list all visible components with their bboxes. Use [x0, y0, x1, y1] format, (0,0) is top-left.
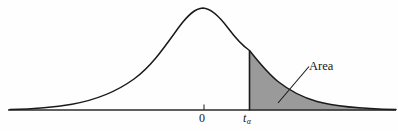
axis-tick-label-zero: 0: [199, 112, 205, 124]
critical-value-subscript-alpha: α: [247, 117, 251, 126]
axis-tick-label-critical-value: tα: [243, 112, 251, 126]
critical-value-base-letter: t: [243, 111, 246, 125]
area-annotation-label: Area: [309, 60, 333, 73]
t-distribution-figure: 0 tα Area: [0, 0, 398, 131]
density-curve: [10, 8, 396, 110]
